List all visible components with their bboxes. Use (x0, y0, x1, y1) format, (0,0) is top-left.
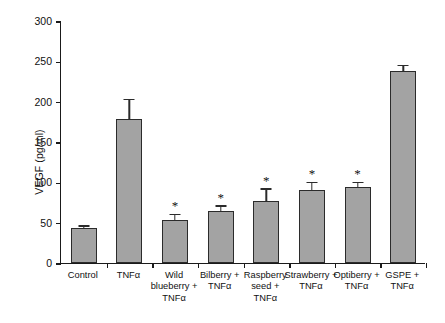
bar-group: * (198, 22, 244, 263)
significance-asterisk: * (172, 201, 179, 210)
error-bar (311, 183, 312, 190)
x-axis-tick-mark (335, 263, 336, 268)
y-axis-tick-mark (56, 62, 61, 63)
y-axis-tick-label: 150 (34, 136, 52, 148)
error-bar-cap (352, 182, 363, 183)
error-bar (402, 66, 403, 71)
x-axis-tick-mark (244, 263, 245, 268)
significance-asterisk: * (217, 193, 224, 202)
y-axis-tick-label: 100 (34, 176, 52, 188)
error-bar-cap (261, 188, 272, 189)
bar-chart-figure: VEGF (pg/ml) ***** 050100150200250300 Co… (0, 0, 445, 323)
significance-asterisk: * (354, 169, 361, 178)
y-axis-tick-mark (56, 263, 61, 264)
y-axis-tick-mark (56, 21, 61, 22)
bar[interactable] (116, 119, 142, 263)
bar-group: * (289, 22, 335, 263)
bar[interactable] (208, 211, 234, 263)
bars-container: ***** (61, 22, 425, 263)
y-axis-tick-mark (56, 223, 61, 224)
error-bar (129, 100, 130, 119)
y-axis-tick-label: 250 (34, 55, 52, 67)
significance-asterisk: * (309, 169, 316, 178)
error-bar-cap (170, 214, 181, 215)
x-axis-labels: ControlTNFαWild blueberry + TNFαBilberry… (60, 270, 425, 320)
error-bar-cap (398, 65, 409, 66)
bar[interactable] (299, 190, 325, 263)
bar-group (61, 22, 107, 263)
bar-group: * (244, 22, 290, 263)
bar[interactable] (162, 220, 188, 263)
error-bar (83, 227, 84, 229)
bar-group: * (335, 22, 381, 263)
error-bar-cap (124, 99, 135, 100)
error-bar (220, 207, 221, 212)
x-axis-tick-mark (426, 263, 427, 268)
bar-group (380, 22, 426, 263)
x-axis-tick-mark (380, 263, 381, 268)
y-axis-tick-mark (56, 183, 61, 184)
y-axis-tick-label: 50 (40, 217, 52, 229)
y-axis-tick-mark (56, 142, 61, 143)
bar[interactable] (345, 187, 371, 263)
y-axis-tick-mark (56, 102, 61, 103)
x-axis-tick-mark (289, 263, 290, 268)
error-bar-cap (215, 205, 226, 206)
y-axis-tick-label: 0 (46, 257, 52, 269)
error-bar (174, 215, 175, 220)
bar-group (107, 22, 153, 263)
error-bar (266, 190, 267, 201)
y-axis-tick-label: 300 (34, 15, 52, 27)
error-bar-cap (78, 225, 89, 226)
bar-group: * (152, 22, 198, 263)
significance-asterisk: * (263, 176, 270, 185)
x-axis-tick-mark (107, 263, 108, 268)
error-bar-cap (306, 182, 317, 183)
x-axis-tick-mark (152, 263, 153, 268)
bar[interactable] (253, 201, 279, 263)
bar[interactable] (71, 228, 97, 263)
y-axis-tick-label: 200 (34, 96, 52, 108)
x-axis-tick-label: GSPE + TNFα (374, 270, 430, 293)
plot-area: ***** 050100150200250300 (60, 22, 425, 264)
x-axis-tick-mark (198, 263, 199, 268)
error-bar (357, 183, 358, 187)
bar[interactable] (390, 71, 416, 263)
